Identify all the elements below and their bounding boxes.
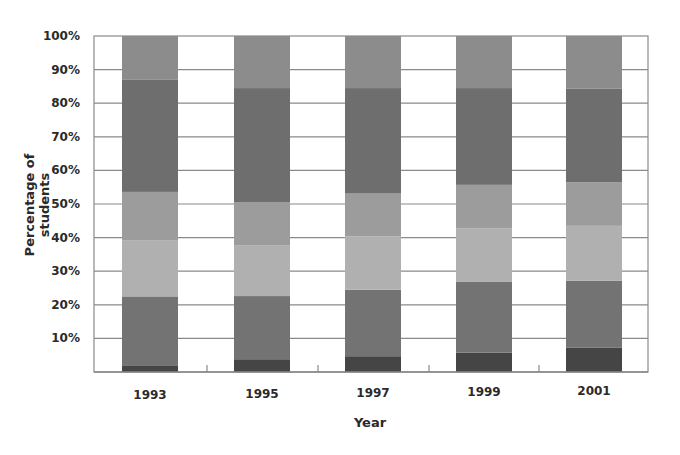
bar-segment [234, 246, 290, 296]
x-tick-label: 1993 [120, 388, 180, 402]
bar-segment [122, 79, 178, 192]
bar-segment [566, 348, 622, 372]
x-tick-label: 1997 [343, 386, 403, 400]
bar-segment [345, 36, 401, 88]
x-tick-label: 2001 [564, 384, 624, 398]
bar-segment [345, 236, 401, 289]
bar-segment [234, 359, 290, 372]
bar-segment [566, 182, 622, 226]
bar-segment [234, 296, 290, 359]
y-tick-label: 20% [30, 298, 80, 312]
bar-segment [345, 356, 401, 372]
x-tick-label: 1995 [232, 387, 292, 401]
bar-segment [122, 296, 178, 365]
y-axis-label: Percentage of students [22, 130, 52, 280]
y-tick-label: 90% [30, 63, 80, 77]
bar-segment [566, 281, 622, 348]
bar-segment [345, 194, 401, 237]
bar-segment [566, 226, 622, 281]
bar-segment [456, 185, 512, 228]
bar-segment [456, 282, 512, 353]
bar-segment [456, 228, 512, 282]
bar-segment [234, 36, 290, 88]
bar-segment [122, 365, 178, 372]
y-tick-label: 100% [30, 29, 80, 43]
y-tick-label: 10% [30, 331, 80, 345]
stacked-bar-chart: 10%20%30%40%50%60%70%80%90%100% 19931995… [0, 0, 680, 455]
bar-segment [122, 36, 178, 79]
x-axis-label: Year [340, 415, 400, 430]
bar-segment [234, 202, 290, 246]
bar-segment [456, 88, 512, 185]
x-tick-label: 1999 [454, 385, 514, 399]
bar-segment [456, 36, 512, 88]
bar-segment [122, 192, 178, 241]
y-tick-label: 80% [30, 96, 80, 110]
bar-segment [345, 88, 401, 194]
bar-segment [456, 353, 512, 372]
bar-segment [234, 88, 290, 202]
bar-segment [122, 241, 178, 297]
bar-segment [566, 88, 622, 182]
bar-segment [566, 36, 622, 88]
bar-segment [345, 290, 401, 357]
